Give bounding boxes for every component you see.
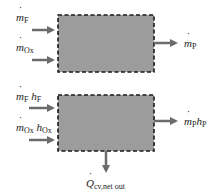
label-mdot-h-fuel: mF hF <box>16 91 41 104</box>
label-qdot-cv-net-out: Qcv,net out <box>86 178 125 191</box>
label-mdot-product-top: mP <box>184 38 196 51</box>
label-mdot-h-product: mPhP <box>184 116 206 129</box>
control-volume-bottom <box>58 95 154 151</box>
label-mdot-ox-top: mOx <box>16 42 34 55</box>
label-mdot-h-ox: mOx hOx <box>16 122 52 135</box>
label-mdot-fuel-top: mF <box>16 12 28 25</box>
control-volume-top <box>58 15 154 72</box>
